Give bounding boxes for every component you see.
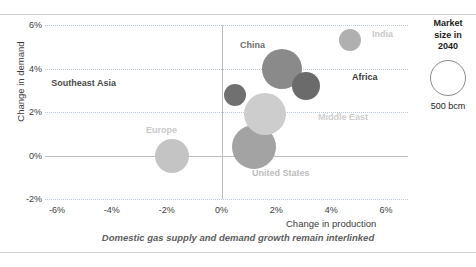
bubble-southeast-asia[interactable]	[224, 84, 246, 106]
legend-title-line2: size in	[420, 30, 476, 42]
legend-size-circle	[430, 60, 466, 96]
bubble-middle-east[interactable]	[244, 93, 286, 135]
legend-title-line3: 2040	[420, 41, 476, 53]
y-tick-neg2: -2%	[8, 194, 42, 204]
bubble-india[interactable]	[339, 29, 361, 51]
legend-title-line1: Market	[420, 18, 476, 30]
bubble-label-europe: Europe	[146, 125, 226, 136]
gridline-6	[45, 25, 408, 26]
legend-size-value: 500 bcm	[420, 101, 476, 111]
gridline-neg2	[45, 199, 408, 200]
x-axis-label: Change in production	[286, 218, 446, 229]
bubble-europe[interactable]	[155, 139, 189, 173]
plot-area: 6%4%2%0%-2%-6%-4%-2%0%2%4%6%Change in de…	[0, 14, 476, 229]
x-tick-neg6: -6%	[37, 205, 77, 215]
bubble-label-united-states: United States	[252, 168, 332, 179]
x-tick-6: 6%	[366, 205, 406, 215]
bubble-africa[interactable]	[292, 72, 320, 100]
bubble-label-china: China	[240, 40, 320, 51]
x-tick-neg4: -4%	[92, 205, 132, 215]
x-tick-2: 2%	[256, 205, 296, 215]
zero-line-vertical	[222, 25, 223, 199]
y-tick-0: 0%	[8, 151, 42, 161]
bubble-size-legend: Market size in 2040 500 bcm	[420, 18, 476, 111]
bottom-divider	[0, 252, 476, 253]
gridline-4	[45, 69, 408, 70]
x-tick-neg2: -2%	[147, 205, 187, 215]
figure-caption: Domestic gas supply and demand growth re…	[0, 232, 476, 243]
x-tick-4: 4%	[311, 205, 351, 215]
zero-line-horizontal	[45, 156, 408, 157]
bubble-label-southeast-asia: Southeast Asia	[46, 78, 116, 89]
chart-figure: 6%4%2%0%-2%-6%-4%-2%0%2%4%6%Change in de…	[0, 0, 476, 267]
bubble-label-middle-east: Middle East	[318, 112, 398, 123]
x-tick-0: 0%	[202, 205, 242, 215]
y-axis-label: Change in demand	[15, 22, 26, 142]
